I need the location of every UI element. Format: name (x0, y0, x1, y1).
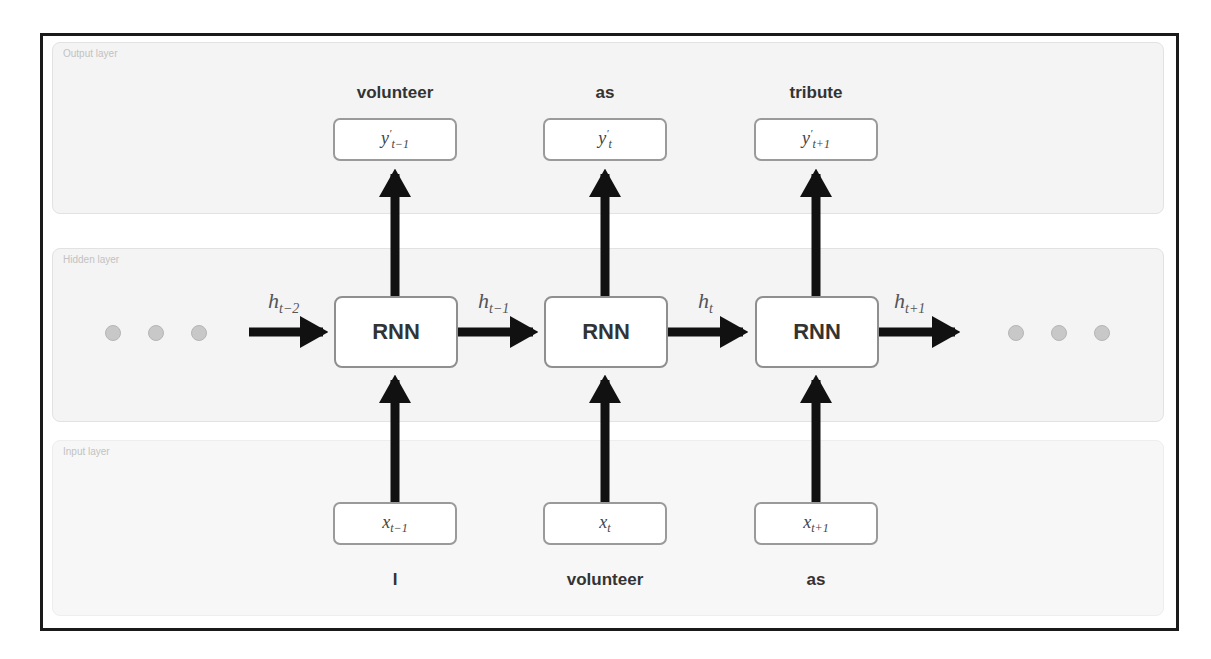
input-symbol-3: xt+1 (803, 512, 828, 536)
output-word-2: as (525, 83, 685, 103)
rnn-cell-1: RNN (334, 296, 458, 368)
input-layer-label: Input layer (63, 446, 110, 457)
input-word-3: as (736, 570, 896, 590)
hidden-layer-label: Hidden layer (63, 254, 119, 265)
input-word-1: I (315, 570, 475, 590)
output-word-3: tribute (736, 83, 896, 103)
hidden-state-label-2: ht−1 (478, 288, 509, 317)
output-layer-label: Output layer (63, 48, 117, 59)
input-word-2: volunteer (525, 570, 685, 590)
output-node-1: y′t−1 (333, 118, 457, 161)
output-node-3: y′t+1 (754, 118, 878, 161)
output-symbol-2: y′t (598, 127, 612, 152)
ellipsis-dot-right-3 (1094, 325, 1110, 341)
ellipsis-dot-left-1 (105, 325, 121, 341)
input-symbol-1: xt−1 (382, 512, 407, 536)
input-node-2: xt (543, 502, 667, 545)
output-word-1: volunteer (315, 83, 475, 103)
ellipsis-dot-right-2 (1051, 325, 1067, 341)
output-node-2: y′t (543, 118, 667, 161)
rnn-cell-2: RNN (544, 296, 668, 368)
output-symbol-3: y′t+1 (802, 127, 830, 152)
output-symbol-1: y′t−1 (381, 127, 409, 152)
rnn-cell-3: RNN (755, 296, 879, 368)
hidden-state-label-3: ht (698, 288, 713, 317)
ellipsis-dot-left-2 (148, 325, 164, 341)
input-node-3: xt+1 (754, 502, 878, 545)
hidden-state-label-1: ht−2 (268, 288, 299, 317)
input-node-1: xt−1 (333, 502, 457, 545)
hidden-state-label-4: ht+1 (894, 288, 925, 317)
input-symbol-2: xt (599, 512, 610, 536)
ellipsis-dot-left-3 (191, 325, 207, 341)
ellipsis-dot-right-1 (1008, 325, 1024, 341)
